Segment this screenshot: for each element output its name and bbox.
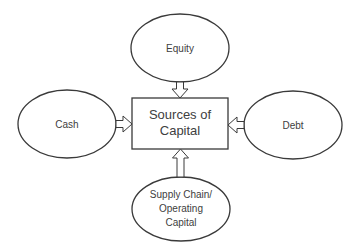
- sources-of-capital-diagram: Equity Cash Debt Supply Chain/ Operating…: [0, 0, 357, 243]
- supply-chain-label-line-2: Operating: [159, 203, 203, 214]
- arrow-left-icon: [228, 117, 244, 133]
- node-cash: Cash: [18, 90, 116, 158]
- cash-label: Cash: [55, 119, 78, 130]
- debt-label: Debt: [282, 120, 303, 131]
- arrow-right-icon: [116, 116, 132, 132]
- center-box: Sources of Capital: [132, 98, 228, 149]
- node-supply-chain: Supply Chain/ Operating Capital: [132, 177, 230, 241]
- equity-label: Equity: [166, 43, 194, 54]
- arrow-up-icon: [173, 149, 189, 177]
- node-equity: Equity: [131, 14, 229, 82]
- supply-chain-label-line-3: Capital: [165, 217, 196, 228]
- center-label-line-2: Capital: [160, 123, 201, 138]
- supply-chain-label-line-1: Supply Chain/: [150, 189, 212, 200]
- node-debt: Debt: [244, 91, 342, 159]
- center-label-line-1: Sources of: [149, 107, 212, 122]
- arrow-down-icon: [172, 82, 188, 98]
